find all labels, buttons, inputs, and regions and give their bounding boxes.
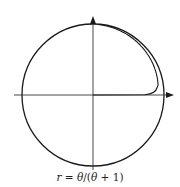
caption-slash: /( [83,171,91,183]
polar-plot [0,0,180,187]
caption-end: + 1) [97,171,123,183]
caption-equals: = [62,171,77,183]
equation-caption: r = θ/(θ + 1) [0,171,180,183]
spiral-curve [93,25,158,96]
y-axis-arrow-icon [90,16,96,24]
x-axis-arrow-icon [166,92,174,98]
